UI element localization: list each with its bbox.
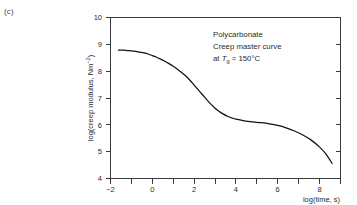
y-axis-ticks-right	[336, 44, 341, 151]
y-axis-title-group: log(creep modulus, Nm−2)	[85, 54, 95, 141]
x-tick-label-2: 2	[192, 185, 196, 194]
y-tick-label-4: 8	[98, 67, 102, 76]
x-tick-label-3: 4	[234, 185, 238, 194]
annotation-line-temperature: at Tg = 150°C	[213, 54, 261, 64]
x-tick-label-5: 8	[317, 185, 321, 194]
y-tick-label-2: 6	[98, 121, 102, 130]
x-tick-label-1: 0	[150, 185, 154, 194]
y-tick-label-6: 10	[94, 13, 102, 22]
annotation-line-material: Polycarbonate	[213, 30, 263, 39]
chart-plot: −2 0 2 4 6 8 4 5 6 7 8 9 10 log(creep mo…	[0, 0, 357, 205]
annotation-temp-suffix: = 150°C	[230, 54, 261, 63]
annotation-temp-prefix: at	[213, 54, 222, 63]
x-axis-title: log(time, s)	[303, 195, 341, 204]
y-tick-label-1: 5	[98, 147, 102, 156]
x-axis-ticks	[111, 179, 341, 184]
svg-text:log(creep modulus, Nm−2): log(creep modulus, Nm−2)	[85, 54, 95, 141]
y-axis-title-close: )	[86, 54, 95, 57]
creep-master-curve	[118, 50, 332, 163]
figure-container: (c)	[0, 0, 357, 205]
x-tick-label-4: 6	[276, 185, 280, 194]
y-tick-label-3: 7	[98, 94, 102, 103]
y-tick-label-0: 4	[98, 174, 102, 183]
y-tick-label-5: 9	[98, 40, 102, 49]
annotation-line-description: Creep master curve	[213, 42, 281, 51]
y-axis-title-main: log(creep modulus, Nm	[86, 64, 95, 142]
y-axis-ticks	[106, 18, 111, 179]
x-tick-label-0: −2	[106, 185, 115, 194]
